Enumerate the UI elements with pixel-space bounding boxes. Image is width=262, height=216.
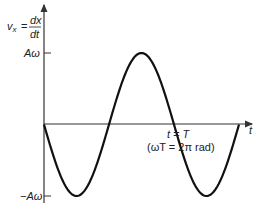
- equals: =: [21, 20, 27, 32]
- ytick-pos-label: Aω: [23, 47, 40, 59]
- ylabel-den: dt: [30, 28, 40, 40]
- ylabel-v: vx: [7, 20, 18, 34]
- annotation-t: t = T: [167, 128, 191, 140]
- ylabel-num: dx: [30, 14, 42, 26]
- annotation-omega: (ωT = 2π rad): [147, 141, 215, 153]
- ytick-neg-label: −Aω: [20, 190, 43, 202]
- xlabel: t: [249, 124, 253, 136]
- velocity-time-diagram: vx = dx dt Aω −Aω t t = T (ωT = 2π rad): [0, 0, 262, 216]
